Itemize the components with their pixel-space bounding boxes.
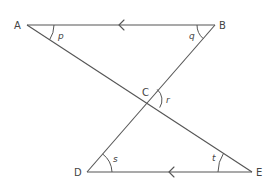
geometry-diagram: A B C D E p q r s t bbox=[0, 0, 274, 185]
angle-label-p: p bbox=[57, 31, 64, 41]
segment-ae bbox=[27, 25, 252, 172]
angle-label-q: q bbox=[189, 31, 195, 41]
point-label-b: B bbox=[219, 20, 226, 31]
point-label-e: E bbox=[256, 167, 262, 178]
angle-arc-p bbox=[50, 25, 54, 40]
point-label-a: A bbox=[14, 20, 21, 31]
angle-arc-t bbox=[218, 153, 224, 172]
angle-label-r: r bbox=[166, 95, 171, 105]
angle-arc-s bbox=[103, 154, 112, 172]
segment-bd bbox=[87, 25, 215, 172]
angle-arc-q bbox=[197, 25, 203, 39]
angle-label-t: t bbox=[212, 153, 216, 163]
angle-label-s: s bbox=[113, 154, 118, 164]
point-label-c: C bbox=[142, 87, 149, 98]
point-label-d: D bbox=[74, 167, 82, 178]
angle-arc-r bbox=[157, 89, 162, 107]
